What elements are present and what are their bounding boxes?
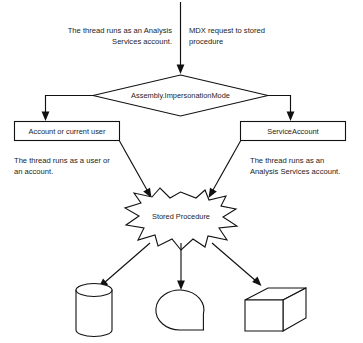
- left-account-box: Account or current user: [15, 122, 120, 141]
- connector-star-to-cube: [212, 243, 262, 286]
- connector-right-box-to-star: [209, 141, 241, 198]
- annotation-mid-left-line2: an account.: [14, 167, 53, 176]
- stored-procedure-star: Stored Procedure: [125, 188, 237, 250]
- annotation-top-left: The thread runs as an Analysis Services …: [68, 26, 172, 46]
- annotation-top-right-line2: procedure: [189, 37, 223, 46]
- annotation-top-left-line1: The thread runs as an Analysis: [68, 26, 172, 35]
- star-label: Stored Procedure: [152, 212, 210, 221]
- tape-loop-icon: [156, 290, 204, 330]
- annotation-mid-left-line1: The thread runs as a user or: [14, 156, 110, 165]
- annotation-top-right-line1: MDX request to stored: [189, 26, 265, 35]
- diagram-canvas: Assembly.ImpersonationMode Account or cu…: [0, 0, 363, 343]
- connector-star-to-database: [99, 243, 151, 288]
- flowchart-svg: Assembly.ImpersonationMode Account or cu…: [0, 0, 363, 343]
- annotation-mid-right: The thread runs as an Analysis Services …: [250, 156, 340, 176]
- decision-label: Assembly.ImpersonationMode: [131, 91, 230, 100]
- annotation-mid-left: The thread runs as a user or an account.: [14, 156, 110, 176]
- annotation-mid-right-line1: The thread runs as an: [250, 156, 324, 165]
- annotation-top-right: MDX request to stored procedure: [189, 26, 265, 46]
- connector-left-box-to-star: [120, 141, 152, 198]
- database-cylinder-icon: [76, 284, 112, 337]
- connector-decision-to-right-box: [268, 96, 294, 122]
- annotation-mid-right-line2: Analysis Services account.: [250, 167, 340, 176]
- connector-decision-to-left-box: [42, 96, 93, 122]
- decision-diamond: Assembly.ImpersonationMode: [93, 75, 268, 116]
- right-box-label: ServiceAccount: [267, 127, 318, 136]
- left-box-label: Account or current user: [29, 127, 106, 136]
- olap-cube-icon: [245, 288, 306, 331]
- annotation-top-left-line2: Services account.: [112, 37, 172, 46]
- connector-star-to-tape: [177, 243, 185, 290]
- connector-request-to-decision: [177, 2, 185, 74]
- right-account-box: ServiceAccount: [241, 122, 346, 141]
